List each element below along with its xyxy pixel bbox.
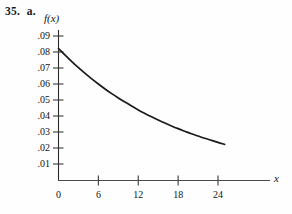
x-tick-label: 0 [56, 189, 61, 200]
x-tick-label: 12 [133, 189, 143, 200]
y-axis-title: f(x) [44, 12, 60, 25]
y-tick-label: .09 [38, 30, 51, 41]
y-tick-label: .02 [38, 142, 51, 153]
y-tick-label: .07 [38, 62, 51, 73]
x-tick-label: 24 [213, 189, 223, 200]
data-curve [59, 48, 225, 144]
figure-page: 35. a. f(x) x .01.02.03.04.05.06.07.08.0… [0, 0, 292, 214]
x-tick-label: 18 [173, 189, 183, 200]
x-tick-label: 6 [96, 189, 101, 200]
x-axis-title: x [273, 172, 279, 184]
y-tick-label: .01 [38, 158, 51, 169]
y-tick-label: .04 [38, 110, 51, 121]
y-tick-label: .05 [38, 94, 51, 105]
x-axis-ticks: 06121824 [56, 176, 223, 201]
y-axis-ticks: .01.02.03.04.05.06.07.08.09 [38, 30, 64, 169]
y-tick-label: .08 [38, 46, 51, 57]
y-tick-label: .06 [38, 78, 51, 89]
y-tick-label: .03 [38, 126, 51, 137]
exponential-decay-chart: f(x) x .01.02.03.04.05.06.07.08.09 06121… [0, 0, 292, 214]
